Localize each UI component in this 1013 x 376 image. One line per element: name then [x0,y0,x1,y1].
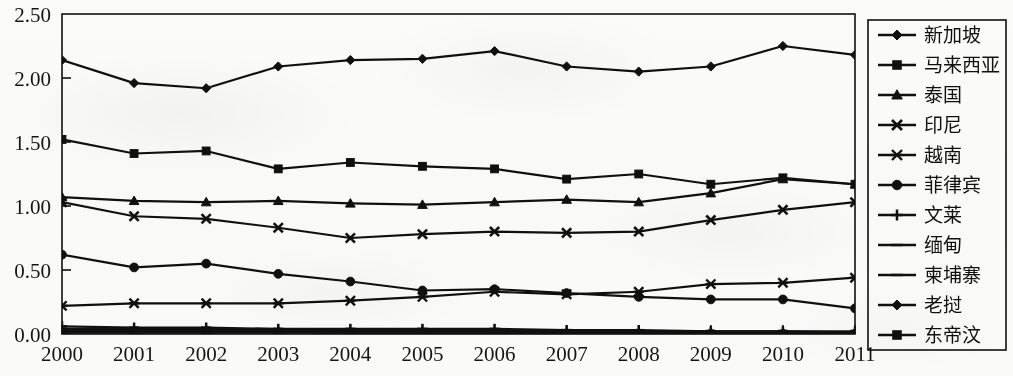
x-axis-tick-label: 2004 [329,342,372,366]
line-chart: 0.000.501.001.502.002.502000200120022003… [0,0,1013,376]
data-point-marker-circle [490,285,499,294]
x-axis-tick-label: 2005 [401,342,443,366]
legend-item-泰国[interactable]: 泰国 [868,80,1006,110]
x-axis-tick-label: 2002 [185,342,227,366]
series-泰国 [57,174,860,208]
data-point-marker-diamond [346,55,355,64]
legend-item-label: 越南 [924,144,962,166]
data-point-marker-asterisk [273,299,284,308]
y-axis-tick-label: 2.50 [14,3,51,27]
legend-item-label: 印尼 [924,114,962,136]
data-point-marker-square [346,329,354,337]
data-point-marker-diamond [129,79,138,88]
data-point-marker-square [893,331,902,340]
data-point-marker-diamond [57,55,66,64]
series-line [62,278,855,306]
x-axis-tick-label: 2001 [113,342,155,366]
data-point-marker-circle [274,269,283,278]
data-point-marker-diamond [418,54,427,63]
data-point-marker-square [58,136,66,144]
y-axis-tick-label: 0.50 [14,259,51,283]
series-line [62,255,855,309]
legend-item-越南[interactable]: 越南 [868,140,1006,170]
data-point-marker-diamond [274,62,283,71]
data-point-marker-square [707,330,715,338]
legend-item-柬埔寨[interactable]: 柬埔寨 [868,260,1006,290]
data-point-marker-asterisk [706,279,717,288]
legend-item-label: 柬埔寨 [924,264,981,286]
data-point-marker-diamond [202,84,211,93]
x-axis-tick-label: 2000 [41,342,83,366]
data-point-marker-circle [58,250,67,259]
series-layer [56,41,860,338]
legend-item-label: 菲律宾 [924,174,981,196]
data-point-marker-square [563,175,571,183]
data-point-marker-circle [779,295,788,304]
x-axis-tick-label: 2008 [618,342,660,366]
data-point-marker-circle [346,277,355,286]
legend-item-老挝[interactable]: 老挝 [868,290,1006,320]
data-point-marker-square [202,329,210,337]
y-axis-tick-label: 1.00 [14,195,51,219]
data-point-marker-asterisk [129,299,140,308]
x-axis-tick-label: 2010 [762,342,804,366]
series-越南 [57,273,861,310]
legend-item-缅甸[interactable]: 缅甸 [868,230,1006,260]
data-point-marker-diamond [634,67,643,76]
series-line [62,202,855,238]
chart-canvas: 0.000.501.001.502.002.502000200120022003… [0,0,1013,376]
legend-item-label: 马来西亚 [924,54,1000,76]
data-point-marker-circle [892,180,902,190]
legend-item-label: 老挝 [924,294,962,316]
data-point-marker-circle [562,289,571,298]
data-point-marker-square [419,162,427,170]
data-point-marker-square [58,329,66,337]
legend-item-label: 泰国 [924,84,962,106]
legend-item-新加坡[interactable]: 新加坡 [868,20,1006,50]
data-point-marker-diamond [490,47,499,56]
data-point-marker-square [274,165,282,173]
data-point-marker-square [491,165,499,173]
series-新加坡 [57,41,859,92]
y-axis-tick-label: 2.00 [14,67,51,91]
series-line [62,333,855,334]
data-point-marker-circle [634,293,643,302]
data-point-marker-diamond [562,62,571,71]
legend-item-label: 东帝汶 [924,324,981,346]
data-point-marker-diamond [850,50,859,59]
data-point-marker-square [563,330,571,338]
data-point-marker-circle [418,286,427,295]
data-point-marker-square [274,329,282,337]
data-point-marker-asterisk [345,296,356,305]
data-point-marker-square [130,150,138,158]
legend-item-菲律宾[interactable]: 菲律宾 [868,170,1006,200]
data-point-marker-asterisk [778,278,789,287]
data-point-marker-square [491,329,499,337]
legend-item-印尼[interactable]: 印尼 [868,110,1006,140]
series-line [62,46,855,88]
data-point-marker-square [779,330,787,338]
series-line [62,139,855,184]
legend-item-label: 新加坡 [924,24,981,46]
data-point-marker-square [130,329,138,337]
legend-item-马来西亚[interactable]: 马来西亚 [868,50,1006,80]
legend-item-文莱[interactable]: 文莱 [868,200,1006,230]
data-point-marker-circle [706,295,715,304]
x-axis-tick-label: 2006 [474,342,516,366]
data-point-marker-square [851,330,859,338]
data-point-marker-square [635,170,643,178]
x-axis-tick-label: 2007 [546,342,588,366]
data-point-marker-square [346,159,354,167]
series-马来西亚 [58,136,859,189]
legend-item-label: 文莱 [924,204,962,226]
data-point-marker-square [419,329,427,337]
legend: 新加坡马来西亚泰国印尼越南菲律宾文莱缅甸柬埔寨老挝东帝汶 [868,20,1006,350]
data-point-marker-diamond [706,62,715,71]
y-axis-tick-label: 1.50 [14,131,51,155]
data-point-marker-square [635,330,643,338]
legend-item-东帝汶[interactable]: 东帝汶 [868,320,1006,350]
legend-item-label: 缅甸 [924,234,962,256]
data-point-marker-square [707,180,715,188]
data-point-marker-circle [851,304,860,313]
data-point-marker-square [893,61,902,70]
